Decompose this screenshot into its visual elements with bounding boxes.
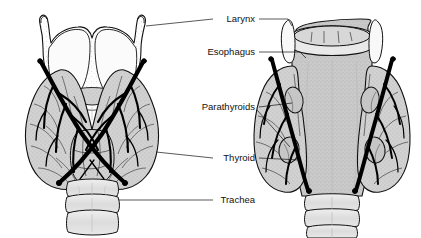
diagram-canvas: Larynx Esophagus Parathyroids Thyroid Tr… <box>0 0 421 238</box>
anatomy-diagram: Larynx Esophagus Parathyroids Thyroid Tr… <box>0 0 421 238</box>
label-trachea-text: Trachea <box>221 194 256 205</box>
label-esophagus-text: Esophagus <box>207 46 255 57</box>
tracheal-rings-posterior <box>305 194 360 238</box>
leader-thyroid-left <box>156 152 213 158</box>
label-parathyroids-text: Parathyroids <box>202 101 256 112</box>
anterior-view <box>26 15 159 235</box>
label-thyroid-text: Thyroid <box>223 152 255 163</box>
leader-larynx-left <box>146 19 213 26</box>
label-larynx: Larynx <box>146 13 292 26</box>
label-trachea: Trachea <box>119 194 256 205</box>
tracheal-rings-anterior <box>66 179 120 235</box>
label-larynx-text: Larynx <box>226 13 255 24</box>
